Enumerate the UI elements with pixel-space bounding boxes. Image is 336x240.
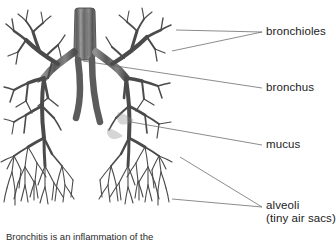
label-bronchus: bronchus: [266, 81, 314, 94]
label-alveoli-text: alveoli: [266, 199, 299, 211]
label-bronchioles-text: bronchioles: [266, 25, 326, 37]
label-mucus-text: mucus: [266, 138, 300, 150]
label-mucus: mucus: [266, 138, 300, 151]
label-alveoli: alveoli (tiny air sacs): [266, 199, 336, 225]
figure-caption: Bronchitis is an inflammation of the: [6, 231, 153, 240]
label-bronchioles: bronchioles: [266, 25, 326, 38]
figure-caption-line1: Bronchitis is an inflammation of the: [6, 231, 153, 240]
label-bronchus-text: bronchus: [266, 81, 314, 93]
label-alveoli-subtext: (tiny air sacs): [266, 212, 336, 225]
